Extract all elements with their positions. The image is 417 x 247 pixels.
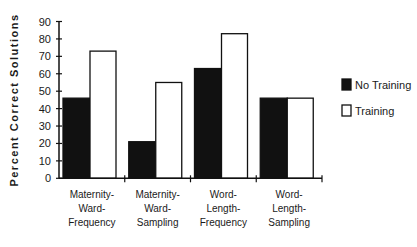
y-tick-label: 70: [39, 50, 51, 62]
x-category-label: Ward-: [78, 203, 105, 214]
y-tick-label: 20: [39, 137, 51, 149]
bar-training: [222, 34, 248, 179]
x-category-label: Maternity-: [70, 189, 114, 200]
x-category-label: Length-: [272, 203, 306, 214]
y-tick-label: 40: [39, 103, 51, 115]
y-tick-label: 10: [39, 155, 51, 167]
x-category-label: Maternity-: [135, 189, 179, 200]
y-axis-label: Percent Correct Solutions: [8, 13, 20, 186]
legend-swatch: [342, 79, 351, 90]
x-category-label: Word-: [210, 189, 237, 200]
y-axis-title: Percent Correct Solutions: [8, 13, 20, 186]
bar-no-training: [260, 98, 287, 178]
y-tick-label: 60: [39, 68, 51, 80]
bar-training: [287, 98, 313, 178]
y-axis: 0102030405060708090: [39, 16, 62, 185]
bar-training: [156, 82, 182, 178]
bar-chart: Percent Correct Solutions 01020304050607…: [0, 0, 417, 247]
x-category-label: Sampling: [268, 217, 310, 228]
x-category-label: Sampling: [137, 217, 179, 228]
x-axis: Maternity-Ward-FrequencyMaternity-Ward-S…: [59, 175, 322, 228]
x-category-label: Frequency: [200, 217, 247, 228]
x-category-label: Ward-: [144, 203, 171, 214]
bar-no-training: [129, 142, 156, 179]
bar-no-training: [63, 98, 90, 178]
x-category-label: Word-: [276, 189, 303, 200]
legend-label: No Training: [355, 79, 411, 91]
y-tick-label: 80: [39, 33, 51, 45]
y-tick-label: 0: [45, 172, 51, 184]
bar-training: [90, 51, 116, 178]
bar-no-training: [195, 69, 222, 179]
bars: [63, 34, 313, 179]
x-category-label: Frequency: [68, 217, 115, 228]
legend: No TrainingTraining: [342, 79, 411, 117]
legend-swatch: [342, 105, 351, 116]
y-tick-label: 30: [39, 120, 51, 132]
x-category-label: Length-: [206, 203, 240, 214]
y-tick-label: 90: [39, 16, 51, 28]
legend-label: Training: [355, 105, 394, 117]
y-tick-label: 50: [39, 85, 51, 97]
